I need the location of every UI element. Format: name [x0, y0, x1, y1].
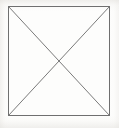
- figure-canvas: [0, 0, 119, 128]
- crossed-box-figure: [0, 0, 119, 128]
